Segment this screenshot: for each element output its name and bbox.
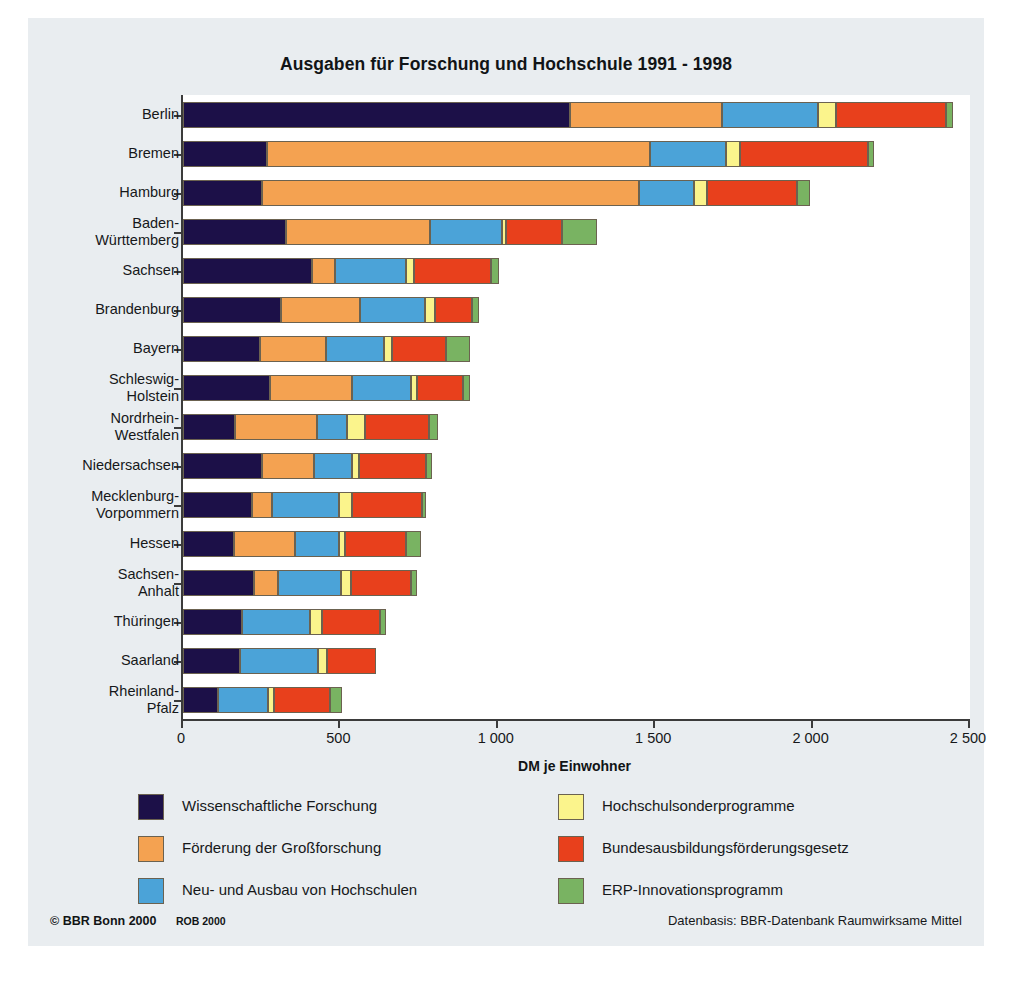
category-label-line: Brandenburg xyxy=(95,301,179,318)
category-label: Hessen xyxy=(130,535,179,552)
bar-segment xyxy=(570,102,722,128)
bar-segment xyxy=(183,375,270,401)
legend-label: ERP-Innovationsprogramm xyxy=(602,881,783,898)
bar-segment xyxy=(352,453,359,479)
bar-segment xyxy=(183,180,262,206)
category-label-line: Hamburg xyxy=(119,184,179,201)
bar-segment xyxy=(252,492,272,518)
category-label-line: Hessen xyxy=(130,535,179,552)
bar-row xyxy=(183,453,432,479)
data-source-text: Datenbasis: BBR-Datenbank Raumwirksame M… xyxy=(668,913,962,928)
bar-segment xyxy=(267,141,650,167)
value-tick xyxy=(496,719,498,728)
bar-segment xyxy=(183,609,242,635)
bar-segment xyxy=(183,648,240,674)
category-label: Sachsen-Anhalt xyxy=(118,566,179,600)
bar-segment xyxy=(435,297,472,323)
category-label-line: Westfalen xyxy=(111,427,180,444)
category-label-line: Nordrhein- xyxy=(111,410,180,427)
bar-segment xyxy=(414,258,491,284)
value-tick-label: 2 500 xyxy=(950,730,986,746)
category-label: Bremen xyxy=(128,145,179,162)
bar-row xyxy=(183,336,470,362)
bar-segment xyxy=(426,453,432,479)
bar-row xyxy=(183,180,810,206)
bar-segment xyxy=(430,219,502,245)
plot-area: BerlinBremenHamburgBaden-WürttembergSach… xyxy=(181,95,970,719)
bar-segment xyxy=(330,687,342,713)
category-label: Thüringen xyxy=(114,613,179,630)
bar-row xyxy=(183,609,386,635)
bar-segment xyxy=(472,297,479,323)
value-axis-line xyxy=(181,719,970,721)
category-label-line: Württemberg xyxy=(95,232,179,249)
category-label: Nordrhein-Westfalen xyxy=(111,410,180,444)
bar-row xyxy=(183,414,438,440)
bar-segment xyxy=(406,531,421,557)
value-tick xyxy=(811,719,813,728)
chart-legend: Wissenschaftliche ForschungHochschulsond… xyxy=(138,794,938,904)
category-axis-labels: BerlinBremenHamburgBaden-WürttembergSach… xyxy=(33,95,179,719)
bar-segment xyxy=(254,570,278,596)
legend-label: Neu- und Ausbau von Hochschulen xyxy=(182,881,417,898)
bar-segment xyxy=(650,141,726,167)
value-tick-label: 1 000 xyxy=(478,730,514,746)
category-label-line: Rheinland- xyxy=(109,683,179,700)
legend-label: Förderung der Großforschung xyxy=(182,839,381,856)
bar-segment xyxy=(326,336,384,362)
legend-swatch xyxy=(138,836,164,862)
value-tick xyxy=(653,719,655,728)
bar-segment xyxy=(411,570,417,596)
bar-segment xyxy=(694,180,707,206)
category-label-line: Schleswig- xyxy=(109,371,179,388)
bar-segment xyxy=(347,414,365,440)
bar-segment xyxy=(446,336,470,362)
bar-segment xyxy=(262,180,639,206)
bar-segment xyxy=(384,336,392,362)
category-label-line: Pfalz xyxy=(109,700,179,717)
legend-swatch xyxy=(138,878,164,904)
bar-segment xyxy=(242,609,310,635)
bar-segment xyxy=(262,453,314,479)
bar-segment xyxy=(359,453,426,479)
legend-swatch xyxy=(558,878,584,904)
bar-segment xyxy=(341,570,351,596)
legend-swatch xyxy=(558,794,584,820)
bar-segment xyxy=(722,102,818,128)
bar-segment xyxy=(235,414,317,440)
bar-segment xyxy=(270,375,352,401)
bar-segment xyxy=(183,492,252,518)
bar-segment xyxy=(506,219,562,245)
legend-swatch xyxy=(558,836,584,862)
bar-row xyxy=(183,531,421,557)
bar-segment xyxy=(312,258,335,284)
category-label: Berlin xyxy=(142,106,179,123)
bar-segment xyxy=(639,180,694,206)
bar-segment xyxy=(429,414,438,440)
bar-segment xyxy=(314,453,352,479)
category-label: Rheinland-Pfalz xyxy=(109,683,179,717)
bar-segment xyxy=(317,414,347,440)
bar-row xyxy=(183,375,470,401)
bar-segment xyxy=(946,102,953,128)
bar-segment xyxy=(281,297,360,323)
copyright-text: © BBR Bonn 2000 xyxy=(50,914,156,928)
bar-segment xyxy=(183,102,570,128)
bar-segment xyxy=(707,180,797,206)
bar-segment xyxy=(272,492,339,518)
legend-label: Wissenschaftliche Forschung xyxy=(182,797,377,814)
category-label: Sachsen xyxy=(123,262,179,279)
bar-segment xyxy=(417,375,464,401)
bar-row xyxy=(183,258,499,284)
bar-segment xyxy=(351,570,411,596)
category-label-line: Niedersachsen xyxy=(82,457,179,474)
bar-segment xyxy=(183,297,281,323)
bar-segment xyxy=(183,570,254,596)
bar-segment xyxy=(818,102,836,128)
category-label-line: Vorpommern xyxy=(91,505,179,522)
bar-segment xyxy=(260,336,326,362)
category-label-line: Mecklenburg- xyxy=(91,488,179,505)
bar-row xyxy=(183,219,597,245)
category-label-line: Thüringen xyxy=(114,613,179,630)
bar-segment xyxy=(278,570,341,596)
